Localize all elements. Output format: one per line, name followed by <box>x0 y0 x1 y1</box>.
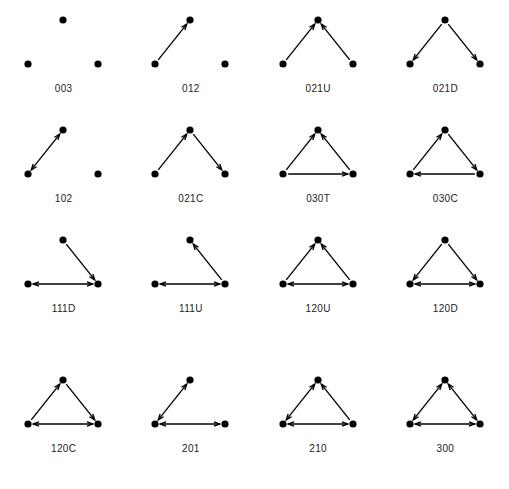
triad-label: 030C <box>433 193 458 205</box>
triad-cell-030C: 030C <box>382 114 509 224</box>
triad-node-bottom-left <box>25 420 32 427</box>
triad-figure-210 <box>255 364 382 442</box>
triad-node-bottom-right <box>349 420 356 427</box>
mutual-edge <box>159 384 188 420</box>
mutual-edge <box>31 134 60 170</box>
triad-node-bottom-right <box>95 170 102 177</box>
triad-cell-120U: 120U <box>255 224 382 364</box>
triad-node-top <box>60 236 67 243</box>
directed-edge <box>159 24 188 60</box>
triad-label: 003 <box>55 83 73 95</box>
triad-figure-012 <box>127 4 254 82</box>
directed-edge <box>31 384 60 420</box>
directed-edge <box>448 134 477 170</box>
triad-node-bottom-right <box>476 280 483 287</box>
triad-figure-120U <box>255 224 382 302</box>
triad-label: 021D <box>433 83 458 95</box>
triad-label: 102 <box>55 193 73 205</box>
triad-figure-003 <box>0 4 127 82</box>
triad-node-bottom-right <box>222 60 229 67</box>
triad-label: 120D <box>433 303 458 315</box>
triad-node-bottom-left <box>25 60 32 67</box>
mutual-edge <box>448 384 477 420</box>
triad-node-top <box>441 236 448 243</box>
triad-node-bottom-left <box>152 60 159 67</box>
triad-label: 120U <box>306 303 331 315</box>
triad-node-bottom-left <box>152 280 159 287</box>
triad-cell-021C: 021C <box>127 114 254 224</box>
triad-node-bottom-right <box>95 60 102 67</box>
triad-node-bottom-left <box>25 280 32 287</box>
directed-edge <box>194 134 223 170</box>
directed-edge <box>448 24 477 60</box>
triad-node-top <box>187 126 194 133</box>
triad-node-bottom-left <box>279 420 286 427</box>
triad-node-bottom-left <box>279 170 286 177</box>
triad-figure-300 <box>382 364 509 442</box>
triad-label: 021C <box>178 193 203 205</box>
triad-census-grid: 003012021U021D102021C030T030C111D111U120… <box>0 0 509 489</box>
triad-node-bottom-right <box>95 420 102 427</box>
triad-node-top <box>60 376 67 383</box>
triad-cell-021U: 021U <box>255 4 382 114</box>
triad-figure-021D <box>382 4 509 82</box>
triad-cell-012: 012 <box>127 4 254 114</box>
triad-node-bottom-right <box>222 420 229 427</box>
triad-node-top <box>314 126 321 133</box>
triad-node-bottom-right <box>349 170 356 177</box>
triad-label: 012 <box>182 83 200 95</box>
triad-node-bottom-left <box>406 280 413 287</box>
triad-label: 111U <box>179 303 203 315</box>
triad-node-top <box>187 236 194 243</box>
triad-figure-120C <box>0 364 127 442</box>
triad-figure-120D <box>382 224 509 302</box>
directed-edge <box>413 134 442 170</box>
triad-node-bottom-left <box>152 170 159 177</box>
triad-cell-021D: 021D <box>382 4 509 114</box>
triad-node-bottom-right <box>476 170 483 177</box>
triad-node-bottom-left <box>406 170 413 177</box>
triad-node-bottom-right <box>476 60 483 67</box>
triad-node-bottom-left <box>406 60 413 67</box>
triad-figure-030T <box>255 114 382 192</box>
triad-label: 210 <box>309 443 327 455</box>
triad-cell-210: 210 <box>255 364 382 489</box>
triad-label: 300 <box>437 443 455 455</box>
triad-node-top <box>441 16 448 23</box>
triad-figure-111D <box>0 224 127 302</box>
triad-node-bottom-right <box>222 170 229 177</box>
triad-cell-111U: 111U <box>127 224 254 364</box>
triad-figure-021U <box>255 4 382 82</box>
triad-figure-201 <box>127 364 254 442</box>
triad-cell-111D: 111D <box>0 224 127 364</box>
triad-node-top <box>187 16 194 23</box>
triad-cell-120C: 120C <box>0 364 127 489</box>
triad-label: 201 <box>182 443 200 455</box>
triad-cell-003: 003 <box>0 4 127 114</box>
triad-node-bottom-right <box>222 280 229 287</box>
triad-node-bottom-right <box>349 60 356 67</box>
triad-cell-201: 201 <box>127 364 254 489</box>
triad-figure-030C <box>382 114 509 192</box>
triad-node-bottom-left <box>25 170 32 177</box>
triad-figure-111U <box>127 224 254 302</box>
triad-node-bottom-right <box>349 280 356 287</box>
triad-figure-021C <box>127 114 254 192</box>
triad-node-bottom-left <box>152 420 159 427</box>
triad-node-top <box>441 126 448 133</box>
triad-cell-300: 300 <box>382 364 509 489</box>
triad-cell-102: 102 <box>0 114 127 224</box>
directed-edge <box>66 244 95 280</box>
mutual-edge <box>413 384 442 420</box>
triad-node-top <box>441 376 448 383</box>
triad-cell-030T: 030T <box>255 114 382 224</box>
directed-edge <box>321 24 350 60</box>
triad-node-bottom-left <box>279 60 286 67</box>
triad-cell-120D: 120D <box>382 224 509 364</box>
triad-node-bottom-left <box>279 280 286 287</box>
triad-figure-102 <box>0 114 127 192</box>
directed-edge <box>413 24 442 60</box>
directed-edge <box>413 244 442 280</box>
triad-node-top <box>60 16 67 23</box>
directed-edge <box>286 134 315 170</box>
